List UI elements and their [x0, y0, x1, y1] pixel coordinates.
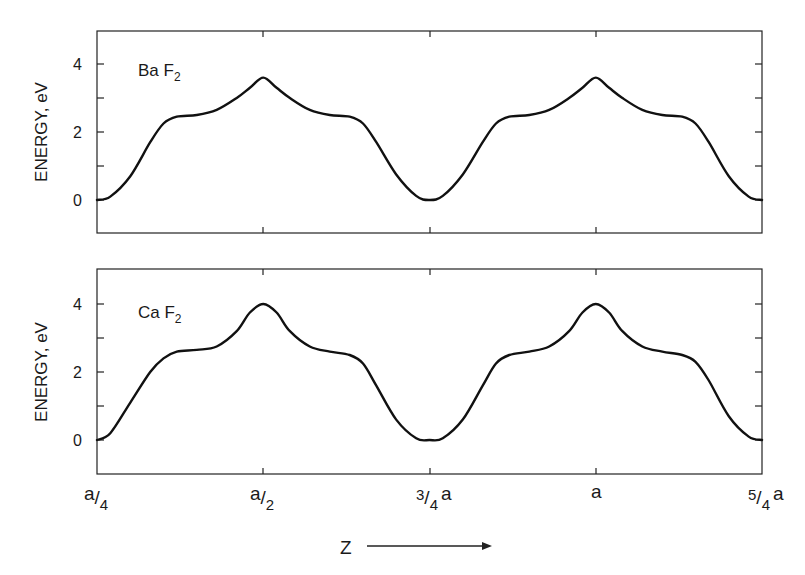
y-tick-label-2-baf2: 2 — [73, 124, 82, 141]
x-axis-tick-labels: a/4 a/2 3/4a a 5/4a — [84, 481, 784, 513]
x-tick-label-a-over-2: a/2 — [250, 483, 274, 513]
energy-curve-caf2 — [97, 304, 762, 440]
x-tick-label-3-over-4-a: 3/4a — [416, 483, 452, 513]
panel-baf2: 0 2 4 ENERGY, eV Ba F2 — [32, 31, 762, 233]
x-axis-label: Z — [340, 537, 492, 558]
arrow-head-icon — [482, 542, 492, 550]
y-tick-label-0-caf2: 0 — [73, 432, 82, 449]
y-axis-label-baf2: ENERGY, eV — [32, 81, 51, 182]
x-tick-label-a: a — [591, 481, 602, 502]
x-ticks-caf2 — [263, 269, 596, 474]
x-tick-label-5-over-4-a: 5/4a — [748, 483, 784, 513]
y-tick-label-4-baf2: 4 — [73, 56, 82, 73]
panel-caf2: 0 2 4 ENERGY, eV Ca F2 — [32, 269, 762, 474]
energy-profile-figure: 0 2 4 ENERGY, eV Ba F2 0 — [0, 0, 805, 575]
plot-frame-baf2 — [97, 31, 762, 233]
energy-curve-baf2 — [97, 78, 762, 200]
y-ticks-caf2 — [97, 304, 762, 440]
x-tick-label-a-over-4: a/4 — [84, 483, 108, 513]
x-ticks-baf2 — [263, 31, 596, 233]
y-axis-label-caf2: ENERGY, eV — [32, 321, 51, 422]
panel-label-caf2: Ca F2 — [138, 303, 182, 326]
panel-label-baf2: Ba F2 — [138, 61, 181, 84]
y-tick-label-4-caf2: 4 — [73, 296, 82, 313]
y-tick-label-0-baf2: 0 — [73, 192, 82, 209]
plot-frame-caf2 — [97, 269, 762, 474]
y-ticks-baf2 — [97, 64, 762, 200]
y-tick-label-2-caf2: 2 — [73, 364, 82, 381]
x-axis-label-z: Z — [340, 537, 352, 558]
